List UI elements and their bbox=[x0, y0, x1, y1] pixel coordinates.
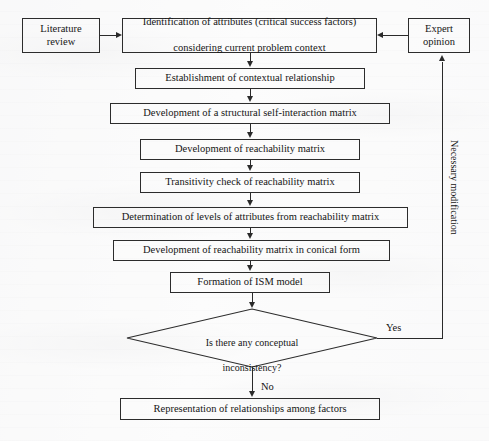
connector-decision-no-to-representation bbox=[252, 367, 253, 392]
node-representation: Representation of relationships among fa… bbox=[120, 398, 380, 420]
node-conical-form: Development of reachability matrix in co… bbox=[113, 240, 390, 261]
edge-label-yes: Yes bbox=[386, 322, 401, 333]
node-contextual-relationship: Establishment of contextual relationship bbox=[135, 68, 365, 89]
flowchart-page: Literature review Identification of attr… bbox=[0, 0, 489, 441]
arrowhead-decision-no-to-representation bbox=[249, 391, 255, 397]
node-reachability-matrix: Development of reachability matrix bbox=[140, 139, 360, 160]
arrowhead-contextual-to-ssim bbox=[247, 96, 253, 102]
node-transitivity-check-label: Transitivity check of reachability matri… bbox=[161, 176, 338, 189]
node-transitivity-check: Transitivity check of reachability matri… bbox=[140, 172, 360, 193]
connector-feedback-vertical bbox=[442, 62, 443, 338]
node-reachability-matrix-label: Development of reachability matrix bbox=[171, 143, 329, 156]
arrowhead-expert-to-identification bbox=[377, 32, 383, 38]
node-identification-label: Identification of attributes (critical s… bbox=[135, 16, 365, 54]
node-expert-opinion-label: Expert opinion bbox=[409, 23, 469, 49]
node-structural-self-interaction-matrix-label: Development of a structural self-interac… bbox=[139, 107, 361, 120]
arrowhead-conical-to-ism bbox=[247, 265, 253, 271]
arrowhead-transitivity-to-levels bbox=[247, 200, 253, 206]
connector-literature-to-identification bbox=[100, 35, 116, 36]
arrowhead-feedback-to-expert-opinion bbox=[439, 55, 445, 61]
connector-decision-yes-horizontal bbox=[377, 338, 443, 339]
arrowhead-identification-to-contextual bbox=[247, 61, 253, 67]
edge-label-necessary-modification: Necessary modification bbox=[449, 140, 460, 235]
node-contextual-relationship-label: Establishment of contextual relationship bbox=[161, 72, 338, 85]
node-literature-review-label: Literature review bbox=[23, 23, 99, 49]
node-identification: Identification of attributes (critical s… bbox=[122, 18, 377, 53]
arrowhead-levels-to-conical bbox=[247, 233, 253, 239]
node-representation-label: Representation of relationships among fa… bbox=[149, 403, 350, 416]
node-ism-model: Formation of ISM model bbox=[170, 272, 330, 293]
node-levels-determination: Determination of levels of attributes fr… bbox=[93, 207, 408, 228]
node-structural-self-interaction-matrix: Development of a structural self-interac… bbox=[110, 103, 390, 124]
node-literature-review: Literature review bbox=[22, 18, 100, 53]
node-levels-determination-label: Determination of levels of attributes fr… bbox=[118, 211, 383, 224]
node-ism-model-label: Formation of ISM model bbox=[193, 276, 306, 289]
node-expert-opinion: Expert opinion bbox=[408, 18, 470, 53]
arrowhead-literature-to-identification bbox=[116, 32, 122, 38]
arrowhead-reachability-to-transitivity bbox=[247, 165, 253, 171]
node-identification-line-1: Identification of attributes (critical s… bbox=[139, 16, 361, 29]
decision-label-line-1: Is there any conceptual bbox=[206, 337, 298, 348]
connector-expert-to-identification bbox=[383, 35, 408, 36]
node-conical-form-label: Development of reachability matrix in co… bbox=[139, 244, 364, 257]
arrowhead-ssim-to-reachability bbox=[247, 132, 253, 138]
edge-label-no: No bbox=[261, 381, 274, 392]
arrowhead-ism-to-decision bbox=[249, 302, 255, 308]
